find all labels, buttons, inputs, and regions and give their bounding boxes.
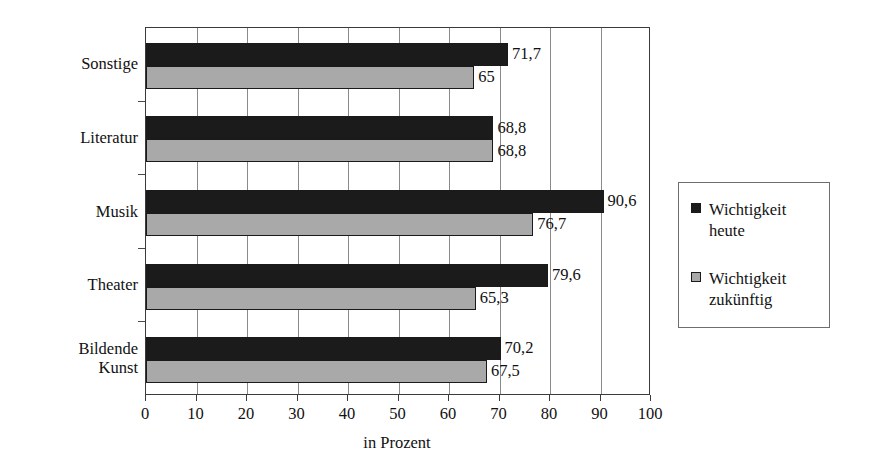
x-tick-label: 80 xyxy=(529,404,569,423)
category-label: Sonstige xyxy=(8,54,138,73)
x-tick-mark xyxy=(549,395,550,401)
bar-future xyxy=(146,287,476,310)
bar-value-label: 67,5 xyxy=(491,363,520,380)
bar-today xyxy=(146,43,508,66)
category-label: Theater xyxy=(8,275,138,294)
category-label: Literatur xyxy=(8,128,138,147)
x-axis-title: in Prozent xyxy=(297,433,497,453)
bar-today xyxy=(146,264,548,287)
bar-value-label: 79,6 xyxy=(552,267,581,284)
bar-today xyxy=(146,337,501,360)
category-axis-labels: SonstigeLiteraturMusikTheaterBildendeKun… xyxy=(0,27,138,395)
legend-swatch-today xyxy=(691,203,701,213)
bar-value-label: 71,7 xyxy=(512,46,541,63)
x-tick-mark xyxy=(145,395,146,401)
x-tick-label: 10 xyxy=(176,404,216,423)
category-tick xyxy=(138,248,145,249)
bar-future xyxy=(146,139,493,162)
chart-figure: SonstigeLiteraturMusikTheaterBildendeKun… xyxy=(0,0,873,474)
x-tick-label: 70 xyxy=(479,404,519,423)
bar-today xyxy=(146,116,493,139)
x-tick-label: 100 xyxy=(630,404,670,423)
category-label: Musik xyxy=(8,202,138,221)
x-tick-label: 30 xyxy=(277,404,317,423)
x-tick-label: 20 xyxy=(226,404,266,423)
x-tick-label: 50 xyxy=(378,404,418,423)
x-tick-mark xyxy=(347,395,348,401)
legend-label: Wichtigkeit heute xyxy=(709,199,786,241)
category-tick xyxy=(138,174,145,175)
bar-value-label: 70,2 xyxy=(505,340,534,357)
legend-label: Wichtigkeit zukünftig xyxy=(709,268,786,310)
bar-future xyxy=(146,213,533,236)
bar-value-label: 65 xyxy=(478,69,495,86)
bar-today xyxy=(146,190,604,213)
x-tick-label: 0 xyxy=(125,404,165,423)
bar-future xyxy=(146,360,487,383)
plot-area xyxy=(145,27,650,395)
x-tick-mark xyxy=(297,395,298,401)
x-tick-mark xyxy=(600,395,601,401)
bar-future xyxy=(146,66,474,89)
bar-value-label: 68,8 xyxy=(497,120,526,137)
category-tick xyxy=(138,101,145,102)
x-tick-mark xyxy=(246,395,247,401)
legend-swatch-future xyxy=(691,272,701,282)
bar-value-label: 76,7 xyxy=(537,216,566,233)
chart-legend: Wichtigkeit heuteWichtigkeit zukünftig xyxy=(678,182,830,328)
x-tick-label: 40 xyxy=(327,404,367,423)
x-tick-label: 90 xyxy=(580,404,620,423)
x-tick-mark xyxy=(650,395,651,401)
x-tick-mark xyxy=(448,395,449,401)
x-tick-mark xyxy=(499,395,500,401)
category-label: BildendeKunst xyxy=(8,339,138,377)
bar-value-label: 68,8 xyxy=(497,143,526,160)
x-tick-mark xyxy=(398,395,399,401)
x-tick-mark xyxy=(196,395,197,401)
bar-value-label: 65,3 xyxy=(480,290,509,307)
category-tick xyxy=(138,321,145,322)
x-tick-label: 60 xyxy=(428,404,468,423)
bar-value-label: 90,6 xyxy=(608,193,637,210)
